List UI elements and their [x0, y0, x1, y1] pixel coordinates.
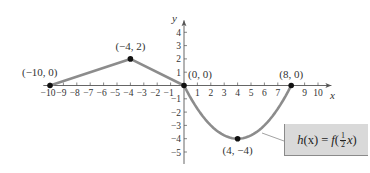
data-point: [288, 83, 294, 89]
point-labels: (−10, 0)(−4, 2)(0, 0)(8, 0)(4, −4): [22, 40, 303, 157]
point-label: (4, −4): [223, 144, 253, 157]
x-tick-label: −8: [70, 88, 80, 98]
x-tick-label: 3: [222, 88, 227, 98]
x-tick-label: −6: [97, 88, 107, 98]
x-tick-label: −9: [56, 88, 66, 98]
data-point: [47, 83, 53, 89]
data-point: [128, 56, 134, 62]
point-label: (0, 0): [188, 68, 212, 81]
y-tick-label: 2: [176, 54, 181, 64]
fn-close-paren: ): [353, 133, 357, 148]
x-tick-label: 6: [262, 88, 267, 98]
point-label: (−10, 0): [22, 66, 58, 79]
x-tick-label: 4: [235, 88, 240, 98]
data-point: [235, 136, 241, 142]
y-tick-label: −1: [171, 94, 181, 104]
fn-fraction: 12: [340, 132, 346, 149]
function-formula: h(x) = f(12x): [285, 124, 369, 156]
y-tick-label: 1: [176, 68, 181, 78]
fn-arg-x: (x) =: [303, 133, 328, 148]
point-label: (−4, 2): [115, 40, 145, 53]
x-tick-label: 7: [275, 88, 280, 98]
x-tick-label: 5: [249, 88, 254, 98]
x-tick-label: 2: [208, 88, 213, 98]
x-tick-label: −5: [110, 88, 120, 98]
x-tick-label: 9: [302, 88, 307, 98]
function-legend: h(x) = f(12x): [284, 124, 368, 156]
fn-frac-den: 2: [341, 141, 345, 149]
x-tick-label: −2: [150, 88, 160, 98]
y-tick-label: −2: [171, 108, 181, 118]
x-tick-label: 10: [313, 88, 323, 98]
x-tick-label: −4: [123, 88, 133, 98]
x-tick-label: 1: [195, 88, 200, 98]
x-tick-label: −3: [137, 88, 147, 98]
point-label: (8, 0): [279, 68, 303, 81]
y-tick-label: −3: [171, 121, 181, 131]
fn-open-paren: (: [335, 133, 339, 148]
x-tick-label: −7: [83, 88, 93, 98]
y-tick-label: 4: [176, 28, 181, 38]
y-tick-label: 3: [176, 41, 181, 51]
y-tick-label: −4: [171, 134, 181, 144]
y-tick-label: −5: [171, 148, 181, 158]
x-tick-label: −10: [41, 88, 56, 98]
y-axis-label: y: [171, 12, 177, 24]
tick-marks: −10−9−8−7−6−5−4−3−2−11234567910−5−4−3−2−…: [41, 28, 323, 158]
data-point: [181, 83, 187, 89]
legend-leader-line: [262, 133, 284, 141]
x-axis-label: x: [329, 89, 335, 101]
